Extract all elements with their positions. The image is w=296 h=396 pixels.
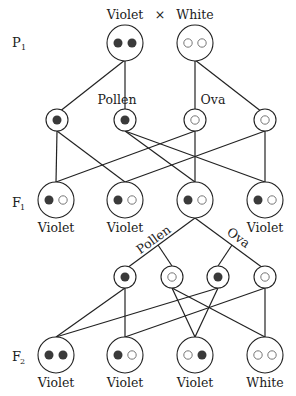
recessive-allele-icon bbox=[254, 351, 262, 359]
f2-plant-4 bbox=[247, 337, 283, 373]
p1-violet-plant bbox=[107, 25, 143, 61]
f2-phenotype-3: Violet bbox=[176, 375, 214, 390]
f2-plant-2 bbox=[107, 337, 143, 373]
parent1-phenotype: Violet bbox=[106, 7, 144, 22]
recessive-allele-icon bbox=[191, 116, 199, 124]
f2-phenotype-4: White bbox=[246, 375, 283, 390]
recessive-allele-icon bbox=[59, 196, 67, 204]
recessive-allele-icon bbox=[128, 351, 136, 359]
p1-white-plant bbox=[177, 25, 213, 61]
f1-gamete-ova-recessive bbox=[254, 266, 276, 288]
dominant-allele-icon bbox=[184, 196, 193, 205]
recessive-allele-icon bbox=[128, 196, 136, 204]
f1-phenotype-4: Violet bbox=[246, 220, 284, 235]
monohybrid-cross-diagram: Violet × White P 1 F 1 F 2 Pollen Ova bbox=[0, 0, 296, 396]
cross-header: Violet × White bbox=[106, 7, 214, 22]
dominant-allele-icon bbox=[214, 273, 223, 282]
dominant-allele-icon bbox=[53, 116, 62, 125]
f2-plant-1 bbox=[38, 337, 74, 373]
dominant-allele-icon bbox=[114, 196, 123, 205]
f1-plant-3 bbox=[177, 182, 213, 218]
p1-gamete-ova-2 bbox=[254, 109, 276, 131]
recessive-allele-icon bbox=[184, 39, 192, 47]
dominant-allele-icon bbox=[121, 116, 130, 125]
svg-text:2: 2 bbox=[20, 357, 25, 366]
dominant-allele-icon bbox=[254, 196, 263, 205]
dominant-allele-icon bbox=[198, 351, 207, 360]
ova-label: Ova bbox=[201, 92, 226, 107]
f1-plant-1 bbox=[38, 182, 74, 218]
p1-gamete-pollen-1 bbox=[46, 109, 68, 131]
recessive-allele-icon bbox=[268, 196, 276, 204]
cross-symbol: × bbox=[155, 7, 165, 22]
recessive-allele-icon bbox=[261, 116, 269, 124]
recessive-allele-icon bbox=[168, 273, 176, 281]
f1-gamete-ova-dominant bbox=[207, 266, 229, 288]
f2-plant-3 bbox=[177, 337, 213, 373]
svg-text:P: P bbox=[12, 35, 21, 50]
connector-lines bbox=[56, 60, 265, 337]
recessive-allele-icon bbox=[268, 351, 276, 359]
recessive-allele-icon bbox=[198, 196, 206, 204]
f1-phenotype-1: Violet bbox=[37, 220, 75, 235]
recessive-allele-icon bbox=[184, 351, 192, 359]
generation-f1-label: F 1 bbox=[12, 195, 25, 212]
pollen-label: Pollen bbox=[98, 92, 137, 107]
svg-text:1: 1 bbox=[20, 203, 25, 212]
recessive-allele-icon bbox=[198, 39, 206, 47]
generation-p1-label: P 1 bbox=[12, 35, 26, 52]
parent2-phenotype: White bbox=[176, 7, 213, 22]
dominant-allele-icon bbox=[45, 196, 54, 205]
f1-gamete-pollen-dominant bbox=[114, 266, 136, 288]
f1-plant-4 bbox=[247, 182, 283, 218]
dominant-allele-icon bbox=[114, 351, 123, 360]
dominant-allele-icon bbox=[128, 39, 137, 48]
f1-plant-2 bbox=[107, 182, 143, 218]
f1-gamete-pollen-recessive bbox=[161, 266, 183, 288]
svg-text:1: 1 bbox=[21, 43, 26, 52]
p1-gamete-ova-1 bbox=[184, 109, 206, 131]
dominant-allele-icon bbox=[59, 351, 68, 360]
dominant-allele-icon bbox=[45, 351, 54, 360]
f2-phenotype-1: Violet bbox=[37, 375, 75, 390]
f1-phenotype-2: Violet bbox=[106, 220, 144, 235]
dominant-allele-icon bbox=[114, 39, 123, 48]
dominant-allele-icon bbox=[121, 273, 130, 282]
f2-phenotype-2: Violet bbox=[106, 375, 144, 390]
generation-f2-label: F 2 bbox=[12, 349, 25, 366]
p1-gamete-pollen-2 bbox=[114, 109, 136, 131]
recessive-allele-icon bbox=[261, 273, 269, 281]
